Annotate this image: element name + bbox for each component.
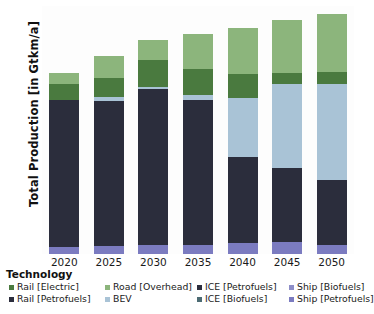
legend-swatch-icon <box>197 297 202 302</box>
bar-segment[interactable] <box>138 89 168 245</box>
x-tick-label: 2045 <box>265 256 309 268</box>
legend-item[interactable]: Ship [Biofuels] <box>286 281 364 293</box>
bar-segment[interactable] <box>138 60 168 86</box>
y-axis-title: Total Production [in Gtkm/a] <box>27 14 41 214</box>
legend-swatch-icon <box>289 285 294 290</box>
bar-segment[interactable] <box>272 73 302 84</box>
legend-swatch-icon <box>105 297 110 302</box>
bar-segment[interactable] <box>317 180 347 245</box>
legend-items: Rail [Electric]Road [Overhead]ICE [Petro… <box>6 281 357 305</box>
legend-item[interactable]: Ship [Petrofuels] <box>286 293 364 305</box>
legend-swatch-icon <box>289 297 294 302</box>
legend-item[interactable]: ICE [Petrofuels] <box>194 281 286 293</box>
legend-item[interactable]: Rail [Petrofuels] <box>6 293 102 305</box>
bar-segment[interactable] <box>138 87 168 89</box>
legend-item-label: Rail [Electric] <box>17 281 79 293</box>
bar-segment[interactable] <box>183 69 213 95</box>
bar-segment[interactable] <box>228 98 258 157</box>
bar-2025[interactable] <box>94 6 124 254</box>
bar-segment[interactable] <box>94 56 124 77</box>
x-tick-label: 2030 <box>131 256 175 268</box>
bar-segment[interactable] <box>94 101 124 246</box>
bar-segment[interactable] <box>49 100 79 247</box>
x-tick-label: 2040 <box>221 256 265 268</box>
bar-segment[interactable] <box>138 40 168 60</box>
legend-item[interactable]: BEV <box>102 293 194 305</box>
bar-segment[interactable] <box>138 245 168 254</box>
bar-segment[interactable] <box>317 84 347 179</box>
bar-segment[interactable] <box>317 72 347 84</box>
bar-2020[interactable] <box>49 6 79 254</box>
legend-swatch-icon <box>9 297 14 302</box>
legend-item[interactable]: Rail [Electric] <box>6 281 102 293</box>
legend-item-label: Rail [Petrofuels] <box>17 293 91 305</box>
bar-2040[interactable] <box>228 6 258 254</box>
legend-item-label: Ship [Biofuels] <box>297 281 364 293</box>
bar-segment[interactable] <box>317 14 347 72</box>
bar-segment[interactable] <box>94 78 124 97</box>
bar-segment[interactable] <box>183 245 213 255</box>
legend-title: Technology <box>6 268 357 280</box>
bar-segment[interactable] <box>49 84 79 100</box>
bar-2050[interactable] <box>317 6 347 254</box>
bar-segment[interactable] <box>183 100 213 244</box>
legend-item-label: BEV <box>113 293 132 305</box>
bar-segment[interactable] <box>183 34 213 69</box>
bar-segment[interactable] <box>272 84 302 168</box>
bar-segment[interactable] <box>317 245 347 254</box>
bar-segment[interactable] <box>94 246 124 254</box>
x-tick-label: 2020 <box>42 256 86 268</box>
legend-swatch-icon <box>9 285 14 290</box>
bar-segment[interactable] <box>183 95 213 100</box>
bar-segment[interactable] <box>272 20 302 73</box>
legend-item[interactable]: ICE [Biofuels] <box>194 293 286 305</box>
legend-item-label: ICE [Biofuels] <box>205 293 267 305</box>
bar-segment[interactable] <box>228 243 258 254</box>
x-tick-label: 2050 <box>310 256 354 268</box>
legend-item-label: Ship [Petrofuels] <box>297 293 374 305</box>
plot-area <box>42 6 354 254</box>
bar-segment[interactable] <box>49 73 79 84</box>
legend: Technology Rail [Electric]Road [Overhead… <box>6 268 357 305</box>
bar-segment[interactable] <box>94 97 124 101</box>
legend-item-label: ICE [Petrofuels] <box>205 281 277 293</box>
bar-2030[interactable] <box>138 6 168 254</box>
bar-2035[interactable] <box>183 6 213 254</box>
x-tick-label: 2035 <box>176 256 220 268</box>
bar-segment[interactable] <box>228 157 258 243</box>
bar-segment[interactable] <box>272 242 302 254</box>
legend-item-label: Road [Overhead] <box>113 281 192 293</box>
legend-swatch-icon <box>105 285 110 290</box>
bar-segment[interactable] <box>49 247 79 254</box>
bar-segment[interactable] <box>228 74 258 98</box>
legend-swatch-icon <box>197 285 202 290</box>
x-tick-label: 2025 <box>87 256 131 268</box>
legend-item[interactable]: Road [Overhead] <box>102 281 194 293</box>
bar-segment[interactable] <box>272 168 302 241</box>
bar-segment[interactable] <box>228 28 258 75</box>
bar-2045[interactable] <box>272 6 302 254</box>
